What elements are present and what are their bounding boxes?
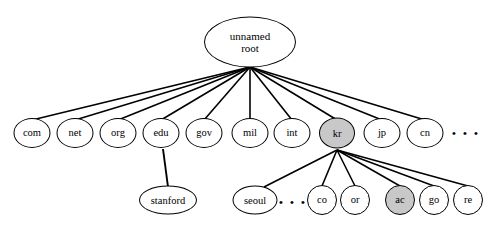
node-mil[interactable]: mil	[232, 118, 269, 148]
node-label-com: com	[23, 127, 41, 138]
node-label-root-line1: unnamed	[230, 30, 270, 42]
node-label-cn: cn	[420, 127, 430, 138]
node-label-gov: gov	[196, 127, 212, 138]
node-label-int: int	[286, 127, 297, 138]
node-label-mil: mil	[243, 127, 257, 138]
node-layer: unnamedrootcomnetorgedugovmilintkrjpcnst…	[0, 0, 494, 237]
node-label-root-line2: root	[241, 42, 259, 54]
node-label-or: or	[351, 194, 360, 205]
node-label-ac: ac	[395, 194, 404, 205]
node-org[interactable]: org	[100, 118, 137, 148]
node-com[interactable]: com	[14, 118, 51, 148]
node-root[interactable]: unnamedroot	[204, 17, 296, 68]
node-label-kr: kr	[333, 127, 342, 138]
node-label-net: net	[69, 127, 82, 138]
node-label-stanford: stanford	[151, 194, 185, 205]
node-or[interactable]: or	[340, 185, 370, 215]
node-ac[interactable]: ac	[385, 185, 415, 215]
node-label-re: re	[464, 194, 472, 205]
node-cn[interactable]: cn	[407, 118, 444, 148]
node-label-jp: jp	[378, 127, 386, 138]
node-kr[interactable]: kr	[319, 118, 355, 149]
node-label-go: go	[429, 194, 440, 205]
node-jp[interactable]: jp	[364, 118, 401, 148]
node-gov[interactable]: gov	[186, 118, 223, 148]
node-label-seoul: seoul	[244, 194, 266, 205]
leaf-ellipsis: • • •	[279, 197, 307, 208]
node-seoul[interactable]: seoul	[233, 186, 278, 215]
node-net[interactable]: net	[57, 118, 94, 148]
tld-ellipsis: • • •	[452, 128, 480, 139]
node-label-org: org	[111, 127, 125, 138]
node-edu[interactable]: edu	[143, 118, 180, 148]
node-label-edu: edu	[153, 127, 168, 138]
node-stanford[interactable]: stanford	[139, 186, 197, 215]
dns-hierarchy-diagram: unnamedrootcomnetorgedugovmilintkrjpcnst…	[0, 0, 494, 237]
node-re[interactable]: re	[453, 185, 483, 215]
node-int[interactable]: int	[274, 118, 311, 148]
node-co[interactable]: co	[307, 185, 337, 215]
node-label-co: co	[317, 194, 327, 205]
node-go[interactable]: go	[419, 185, 449, 215]
